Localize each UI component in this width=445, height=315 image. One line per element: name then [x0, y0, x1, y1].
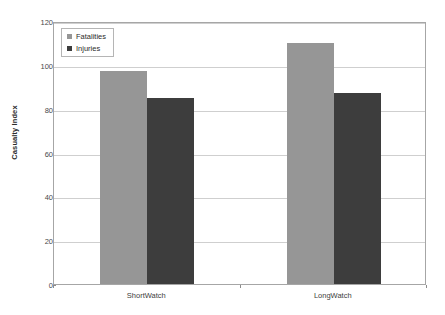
legend-item-fatalities: Fatalities: [67, 33, 106, 41]
y-axis-tick-label: 100: [27, 61, 53, 70]
y-axis-tick-label: 80: [27, 105, 53, 114]
y-axis-tick-label: 40: [27, 193, 53, 202]
plot-area: [53, 22, 426, 285]
x-axis-tick-mark: [53, 285, 54, 288]
y-axis-tick-label: 60: [27, 149, 53, 158]
x-axis-label-shortwatch: ShortWatch: [127, 291, 166, 300]
x-axis-tick-mark: [240, 285, 241, 288]
legend-label-fatalities: Fatalities: [76, 33, 106, 41]
y-axis-tick-labels: 020406080100120: [0, 22, 53, 285]
bar-chart: Casualty Index 020406080100120 ShortWatc…: [0, 0, 445, 315]
bar-injuries-shortwatch: [147, 98, 194, 284]
bar-injuries-longwatch: [334, 93, 381, 284]
y-axis-tick-label: 20: [27, 237, 53, 246]
y-axis-tick-label: 0: [27, 281, 53, 290]
bar-fatalities-shortwatch: [100, 71, 147, 284]
legend-swatch-icon-fatalities: [67, 34, 72, 39]
bar-series-layer: [54, 23, 425, 284]
chart-legend: Fatalities Injuries: [61, 28, 114, 57]
legend-label-injuries: Injuries: [76, 45, 100, 53]
x-axis-tick-mark: [426, 285, 427, 288]
legend-swatch-icon-injuries: [67, 46, 72, 51]
bar-fatalities-longwatch: [287, 43, 334, 284]
legend-item-injuries: Injuries: [67, 45, 106, 53]
y-axis-tick-label: 120: [27, 18, 53, 27]
x-axis-label-longwatch: LongWatch: [314, 291, 352, 300]
